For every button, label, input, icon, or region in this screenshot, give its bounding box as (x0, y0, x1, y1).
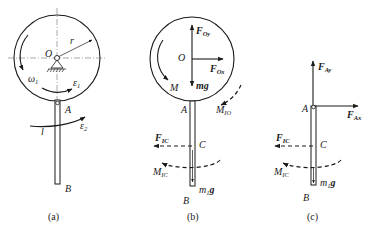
rod-ab (55, 100, 60, 184)
label-m1g: m1g (320, 177, 335, 189)
joint-a (56, 101, 60, 105)
label-fic: FIC (275, 132, 290, 144)
label-omega1: ω1 (28, 73, 38, 85)
label-epsilon1: ε1 (73, 77, 80, 89)
label-a: A (180, 104, 188, 115)
label-foy: FOy (195, 25, 210, 37)
label-a: A (64, 104, 72, 115)
panel-c: FAy FAx A C FIC MIC m1g B (c) (273, 61, 362, 223)
label-mic: MIC (152, 166, 169, 178)
label-mic: MIC (273, 166, 290, 178)
label-b: B (303, 192, 309, 203)
label-o: O (45, 48, 52, 59)
label-b: B (183, 195, 189, 206)
label-l: l (41, 126, 44, 137)
label-r: r (70, 35, 74, 46)
label-fox: FOx (209, 63, 225, 75)
label-a: A (301, 103, 309, 114)
panel-a: O r ω1 ε1 A ε2 l B (a) (8, 8, 106, 223)
caption-b: (b) (187, 211, 199, 223)
caption-a: (a) (48, 211, 59, 223)
mechanics-figure: O r ω1 ε1 A ε2 l B (a) O FOy FOx mg M MI… (0, 0, 370, 235)
omega1-arrow (20, 35, 28, 70)
label-c: C (199, 139, 206, 150)
label-m1g: m1g (199, 184, 214, 196)
label-fax: FAx (346, 109, 362, 121)
label-b: B (65, 183, 71, 194)
panel-b: O FOy FOx mg M MIO A C FIC MIC m1g B (b) (150, 17, 241, 223)
label-m: M (169, 82, 179, 93)
label-mg: mg (196, 80, 209, 91)
label-mio: MIO (215, 104, 232, 116)
label-o: O (178, 52, 185, 63)
radius-arrow (58, 40, 92, 57)
label-fay: FAy (317, 61, 332, 73)
label-epsilon2: ε2 (80, 120, 88, 132)
label-fic: FIC (154, 132, 169, 144)
label-c: C (320, 139, 327, 150)
moment-m-arrow (158, 40, 168, 80)
joint-a (312, 105, 316, 109)
caption-c: (c) (307, 211, 318, 223)
inertia-moment-mio-arrow (221, 85, 241, 105)
